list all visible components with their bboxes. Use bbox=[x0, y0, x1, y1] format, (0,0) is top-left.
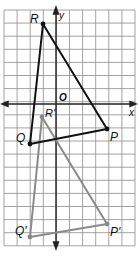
y-axis-down-arrow-icon bbox=[54, 242, 59, 249]
y-axis-up-arrow-icon bbox=[54, 7, 59, 14]
vertex-label-p-prime: P' bbox=[110, 225, 121, 239]
coordinate-plane-figure: x y O R P Q R' P' Q' bbox=[0, 0, 138, 260]
vertex-label-r: R bbox=[30, 12, 39, 26]
x-axis bbox=[2, 102, 136, 107]
vertex-point-r bbox=[41, 22, 46, 27]
vertex-label-p: P bbox=[110, 130, 118, 144]
vertex-label-r-prime: R' bbox=[45, 107, 56, 119]
y-axis-label: y bbox=[58, 10, 65, 21]
vertex-point-q bbox=[28, 142, 33, 147]
vertex-point-p-prime bbox=[105, 222, 110, 227]
grid-lines bbox=[4, 10, 135, 246]
vertex-point-p bbox=[105, 127, 110, 132]
origin-label: O bbox=[59, 92, 67, 103]
vertex-point-q-prime bbox=[28, 235, 33, 240]
vertex-label-q-prime: Q' bbox=[15, 224, 27, 238]
vertex-point-r-prime bbox=[40, 115, 45, 120]
x-axis-left-arrow-icon bbox=[2, 102, 8, 107]
vertex-label-q: Q bbox=[16, 131, 25, 145]
x-axis-label: x bbox=[128, 107, 135, 118]
